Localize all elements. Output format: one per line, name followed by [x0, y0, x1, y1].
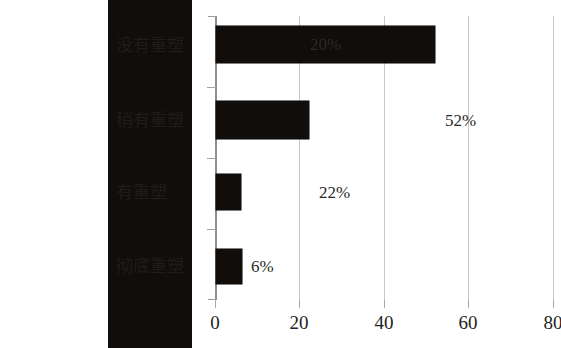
bar-value-2: 22% — [319, 184, 350, 201]
x-tick-label-40: 40 — [354, 312, 414, 334]
category-label-0: 没有重塑 — [116, 35, 211, 55]
gridline-80 — [553, 16, 554, 300]
x-tick-label-20: 20 — [269, 312, 329, 334]
chart-title-cropped: ———— —— —— ———— —— ——— — [220, 0, 561, 7]
x-axis-tick-20 — [299, 300, 300, 308]
x-axis-tick-60 — [468, 300, 469, 308]
category-label-3: 彻底重塑 — [116, 256, 211, 276]
x-tick-label-80: 80 — [523, 312, 561, 334]
x-tick-label-60: 60 — [438, 312, 498, 334]
x-tick-label-0: 0 — [185, 312, 245, 334]
x-axis-tick-40 — [384, 300, 385, 308]
bar-chart-figure: ———— —— —— ———— —— ——— 20% 52% 22% 6% 没有… — [108, 0, 192, 348]
bar-value-3: 6% — [251, 258, 274, 275]
x-axis-tick-0 — [215, 300, 216, 308]
x-axis-tick-80 — [553, 300, 554, 308]
bar-2 — [216, 174, 241, 210]
category-label-1: 稍有重塑 — [116, 110, 211, 130]
bar-3 — [216, 249, 242, 284]
bar-value-1: 52% — [445, 112, 476, 129]
gridline-60 — [468, 16, 469, 300]
bar-1 — [216, 101, 309, 139]
bar-value-0: 20% — [310, 36, 341, 53]
category-label-2: 有重塑 — [116, 182, 211, 202]
